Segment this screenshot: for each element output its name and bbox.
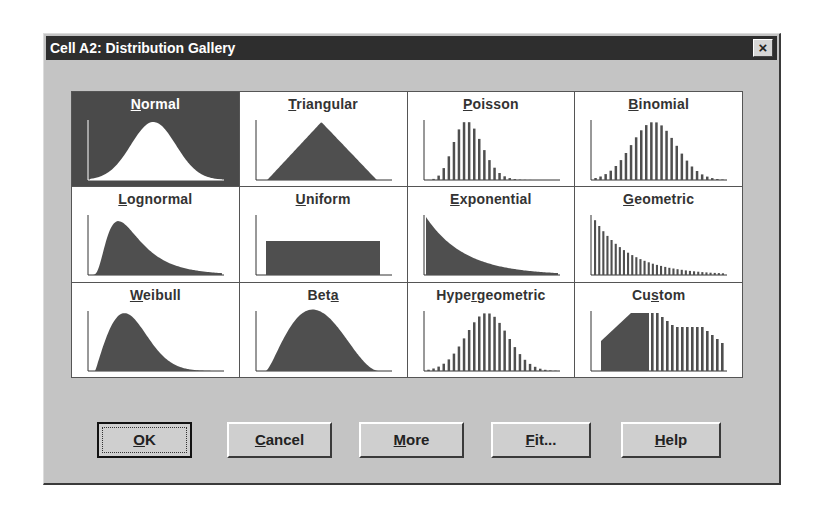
gallery-item-normal[interactable]: Normal — [72, 92, 239, 186]
gallery-item-triangular[interactable]: Triangular — [240, 92, 407, 186]
ok-button[interactable]: OK — [97, 422, 192, 458]
close-icon: × — [759, 39, 768, 56]
gallery-item-poisson[interactable]: Poisson — [408, 92, 575, 186]
cancel-button[interactable]: Cancel — [227, 422, 332, 458]
lognormal-curve-icon — [86, 213, 226, 277]
gallery-item-label: Uniform — [240, 191, 407, 207]
focus-rect — [102, 427, 187, 453]
title-bar: Cell A2: Distribution Gallery × — [46, 36, 777, 60]
gallery-item-geometric[interactable]: Geometric — [575, 187, 742, 281]
gallery-item-binomial[interactable]: Binomial — [575, 92, 742, 186]
gallery-item-label: Beta — [240, 287, 407, 303]
window-title: Cell A2: Distribution Gallery — [50, 40, 235, 56]
uniform-rect-icon — [254, 213, 394, 277]
custom-distribution-icon — [589, 309, 729, 373]
geometric-bars-icon — [589, 213, 729, 277]
distribution-gallery-dialog: Cell A2: Distribution Gallery × Normal T… — [43, 33, 781, 485]
weibull-curve-icon — [86, 309, 226, 373]
gallery-item-label: Triangular — [240, 96, 407, 112]
gallery-item-label: Custom — [575, 287, 742, 303]
gallery-item-hypergeometric[interactable]: Hypergeometric — [408, 283, 575, 377]
beta-curve-icon — [254, 309, 394, 373]
triangle-icon — [254, 118, 394, 182]
gallery-item-label: Hypergeometric — [408, 287, 575, 303]
normal-curve-icon — [86, 118, 226, 182]
hypergeometric-bars-icon — [422, 309, 562, 373]
gallery-item-uniform[interactable]: Uniform — [240, 187, 407, 281]
gallery-item-weibull[interactable]: Weibull — [72, 283, 239, 377]
close-button[interactable]: × — [753, 39, 773, 57]
poisson-bars-icon — [422, 118, 562, 182]
gallery-item-lognormal[interactable]: Lognormal — [72, 187, 239, 281]
fit-button[interactable]: Fit... — [491, 422, 591, 458]
help-button[interactable]: Help — [621, 422, 721, 458]
gallery-item-label: Binomial — [575, 96, 742, 112]
gallery-item-exponential[interactable]: Exponential — [408, 187, 575, 281]
exponential-curve-icon — [422, 213, 562, 277]
distribution-grid: Normal Triangular Poisson Binomial Logno… — [71, 91, 743, 378]
more-button[interactable]: More — [359, 422, 464, 458]
gallery-item-label: Exponential — [408, 191, 575, 207]
gallery-item-label: Poisson — [408, 96, 575, 112]
gallery-item-label: Weibull — [72, 287, 239, 303]
gallery-item-custom[interactable]: Custom — [575, 283, 742, 377]
gallery-item-label: Geometric — [575, 191, 742, 207]
gallery-item-label: Normal — [72, 96, 239, 112]
binomial-bars-icon — [589, 118, 729, 182]
gallery-item-beta[interactable]: Beta — [240, 283, 407, 377]
gallery-item-label: Lognormal — [72, 191, 239, 207]
